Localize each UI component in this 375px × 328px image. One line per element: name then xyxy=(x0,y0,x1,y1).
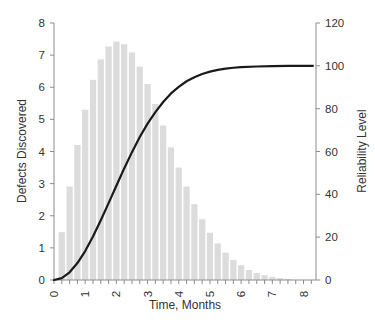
bar xyxy=(168,147,174,280)
bar xyxy=(254,273,260,280)
y-left-tick-label: 8 xyxy=(39,17,45,29)
x-tick-label: 6 xyxy=(235,291,247,297)
bar xyxy=(176,168,182,280)
bar xyxy=(238,265,244,280)
y-left-tick-label: 6 xyxy=(39,81,45,93)
y-left-tick-label: 7 xyxy=(39,49,45,61)
y-left-tick-label: 5 xyxy=(39,113,45,125)
bar xyxy=(98,59,104,280)
y-right-tick-label: 20 xyxy=(325,231,338,243)
bar xyxy=(160,125,166,280)
bar xyxy=(246,270,252,280)
bar xyxy=(90,80,96,280)
bar xyxy=(113,42,119,280)
bar xyxy=(215,243,221,280)
y-right-tick-label: 100 xyxy=(325,60,344,72)
y-right-tick-label: 120 xyxy=(325,17,344,29)
x-tick-label: 0 xyxy=(48,291,60,297)
chart: 012345678020406080100120012345678 Time, … xyxy=(0,0,375,328)
y-left-tick-label: 4 xyxy=(39,146,46,158)
bar xyxy=(144,84,150,280)
x-tick-label: 1 xyxy=(79,291,91,297)
bars-layer xyxy=(59,42,291,280)
bar xyxy=(183,187,189,280)
x-tick-label: 3 xyxy=(142,291,154,297)
bar xyxy=(137,67,143,280)
x-tick-label: 5 xyxy=(204,291,216,297)
y-left-tick-label: 3 xyxy=(39,178,45,190)
x-tick-label: 2 xyxy=(110,291,122,297)
x-axis-title: Time, Months xyxy=(149,298,221,312)
y-axis-right-title: Reliability Level xyxy=(355,109,369,192)
bar xyxy=(66,187,72,280)
bar xyxy=(105,46,111,280)
x-tick-label: 4 xyxy=(173,290,185,297)
y-left-tick-label: 1 xyxy=(39,242,45,254)
y-right-tick-label: 40 xyxy=(325,188,338,200)
x-tick-label: 8 xyxy=(298,291,310,297)
bar xyxy=(222,253,228,280)
bar xyxy=(207,233,213,280)
bar xyxy=(230,260,236,280)
y-axis-left-title: Defects Discovered xyxy=(15,99,29,203)
x-tick-label: 7 xyxy=(266,291,278,297)
y-right-tick-label: 80 xyxy=(325,103,338,115)
y-left-tick-label: 0 xyxy=(39,274,45,286)
bar xyxy=(261,275,267,280)
y-left-tick-label: 2 xyxy=(39,210,45,222)
y-right-tick-label: 60 xyxy=(325,146,338,158)
bar xyxy=(59,232,65,280)
bar xyxy=(191,204,197,280)
bar xyxy=(129,53,135,280)
bar xyxy=(152,104,158,280)
bar xyxy=(199,219,205,280)
y-right-tick-label: 0 xyxy=(325,274,331,286)
